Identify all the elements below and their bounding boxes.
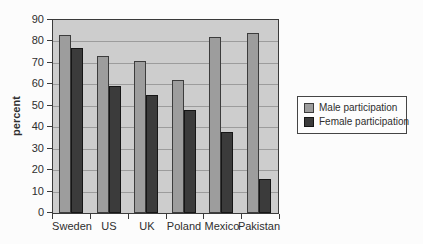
y-tick-label-0: 0	[0, 207, 44, 218]
bar-male-uk	[134, 61, 146, 213]
legend: Male participationFemale participation	[297, 96, 407, 134]
y-tick-label-10: 10	[0, 186, 44, 197]
gridline-10	[53, 192, 278, 193]
y-tick-mark-40	[47, 126, 52, 127]
gridline-60	[53, 84, 278, 85]
bar-female-sweden	[71, 48, 83, 213]
legend-label-male-participation: Male participation	[319, 102, 397, 114]
gridline-20	[53, 170, 278, 171]
x-tick-mark-6	[279, 214, 280, 219]
bar-male-poland	[172, 80, 184, 213]
x-category-label-us: US	[101, 220, 116, 232]
gridline-50	[53, 106, 278, 107]
bar-male-mexico	[209, 37, 221, 213]
x-tick-mark-2	[128, 214, 129, 219]
x-category-label-uk: UK	[139, 220, 154, 232]
y-tick-mark-80	[47, 40, 52, 41]
y-tick-mark-60	[47, 83, 52, 84]
legend-label-female-participation: Female participation	[319, 116, 409, 128]
legend-swatch-male	[304, 103, 314, 113]
gridline-70	[53, 63, 278, 64]
x-tick-mark-0	[52, 214, 53, 219]
gridline-40	[53, 127, 278, 128]
x-tick-mark-1	[90, 214, 91, 219]
x-tick-mark-3	[166, 214, 167, 219]
bar-female-us	[109, 86, 121, 213]
bar-male-pakistan	[247, 33, 259, 213]
legend-item-male-participation: Male participation	[304, 102, 403, 114]
bar-male-us	[97, 56, 109, 213]
x-category-label-poland: Poland	[167, 220, 201, 232]
y-tick-mark-0	[47, 212, 52, 213]
y-tick-label-50: 50	[0, 100, 44, 111]
y-tick-label-20: 20	[0, 164, 44, 175]
y-tick-mark-20	[47, 169, 52, 170]
x-category-label-mexico: Mexico	[205, 220, 240, 232]
bar-female-pakistan	[259, 179, 271, 213]
x-tick-mark-4	[203, 214, 204, 219]
legend-swatch-female	[304, 117, 314, 127]
bar-female-uk	[146, 95, 158, 213]
y-tick-mark-10	[47, 191, 52, 192]
x-category-label-sweden: Sweden	[52, 220, 92, 232]
y-tick-label-80: 80	[0, 35, 44, 46]
x-category-label-pakistan: Pakistan	[238, 220, 280, 232]
bar-female-mexico	[221, 132, 233, 213]
gridline-30	[53, 149, 278, 150]
y-tick-label-60: 60	[0, 78, 44, 89]
plot-area	[52, 19, 279, 214]
bar-male-sweden	[59, 35, 71, 213]
y-tick-label-70: 70	[0, 57, 44, 68]
y-tick-label-40: 40	[0, 121, 44, 132]
y-tick-mark-30	[47, 148, 52, 149]
bar-chart: percent 0102030405060708090 SwedenUSUKPo…	[0, 0, 423, 244]
gridline-80	[53, 41, 278, 42]
y-tick-label-90: 90	[0, 14, 44, 25]
y-tick-mark-50	[47, 105, 52, 106]
bar-female-poland	[184, 110, 196, 213]
x-tick-mark-5	[241, 214, 242, 219]
y-tick-mark-70	[47, 62, 52, 63]
y-tick-mark-90	[47, 19, 52, 20]
legend-item-female-participation: Female participation	[304, 116, 403, 128]
y-tick-label-30: 30	[0, 143, 44, 154]
